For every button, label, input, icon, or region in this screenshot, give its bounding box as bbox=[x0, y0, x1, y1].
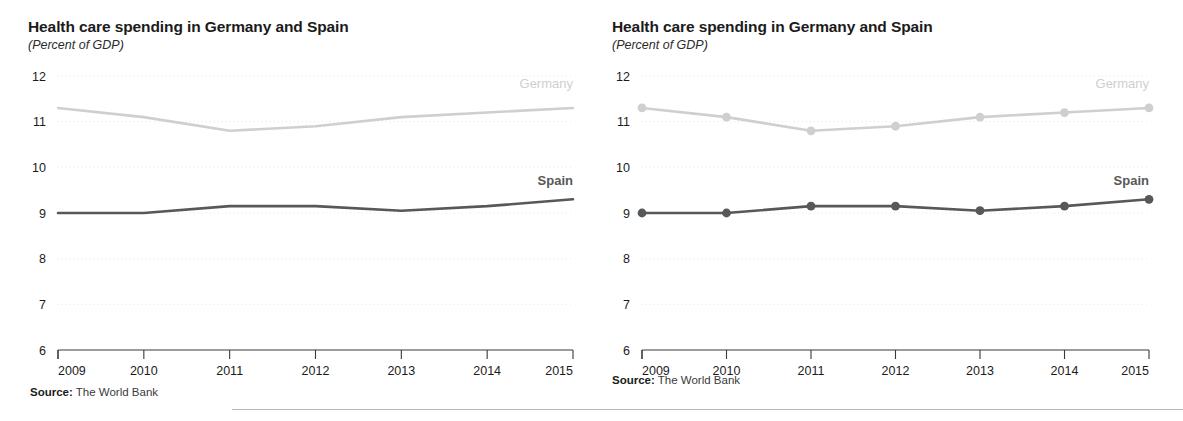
y-axis-tick-label: 6 bbox=[623, 343, 630, 357]
y-axis-tick-label: 8 bbox=[623, 252, 630, 266]
y-axis-tick-label: 12 bbox=[616, 69, 630, 83]
data-point-germany bbox=[1145, 103, 1154, 112]
data-point-germany bbox=[638, 103, 647, 112]
series-label-germany: Germany bbox=[520, 76, 574, 91]
data-point-germany bbox=[722, 112, 731, 121]
y-axis-tick-label: 10 bbox=[32, 161, 46, 175]
chart-subtitle-right: (Percent of GDP) bbox=[612, 39, 1183, 53]
data-point-spain bbox=[638, 208, 647, 217]
data-point-germany bbox=[807, 126, 816, 135]
source-label-right: Source: bbox=[612, 374, 655, 386]
y-axis-tick-label: 9 bbox=[39, 206, 46, 220]
figure-root: Health care spending in Germany and Spai… bbox=[0, 0, 1183, 421]
y-axis-tick-label: 12 bbox=[32, 69, 46, 83]
series-line-spain bbox=[58, 199, 573, 213]
source-note-left: Source: The World Bank bbox=[30, 386, 158, 400]
x-axis-tick-label: 2012 bbox=[302, 364, 330, 378]
source-value-left: The World Bank bbox=[73, 386, 158, 398]
y-axis-tick-label: 7 bbox=[39, 298, 46, 312]
x-axis-tick-label: 2010 bbox=[130, 364, 158, 378]
x-axis-tick-label: 2014 bbox=[1051, 364, 1079, 378]
line-chart-right: 67891011122009201020112012201320142015Ge… bbox=[612, 62, 1152, 345]
series-label-germany: Germany bbox=[1096, 76, 1150, 91]
source-label-left: Source: bbox=[30, 386, 73, 398]
chart-panel-left: Health care spending in Germany and Spai… bbox=[0, 0, 600, 421]
x-axis-tick-label: 2012 bbox=[882, 364, 910, 378]
y-axis-tick-label: 11 bbox=[617, 115, 630, 129]
data-point-spain bbox=[807, 202, 816, 211]
series-label-spain: Spain bbox=[1114, 173, 1149, 188]
data-point-spain bbox=[1060, 202, 1069, 211]
data-point-germany bbox=[976, 112, 985, 121]
series-line-germany bbox=[58, 108, 573, 131]
x-axis-tick-label: 2011 bbox=[798, 364, 825, 378]
data-point-germany bbox=[891, 122, 900, 131]
page-title-right: Health care spending in Germany and Spai… bbox=[612, 18, 1183, 35]
data-point-spain bbox=[722, 208, 731, 217]
data-point-spain bbox=[1145, 195, 1154, 204]
data-point-germany bbox=[1060, 108, 1069, 117]
series-label-spain: Spain bbox=[538, 173, 573, 188]
page-title: Health care spending in Germany and Spai… bbox=[28, 18, 600, 35]
bottom-divider bbox=[232, 409, 1183, 410]
line-chart-left: 67891011122009201020112012201320142015Ge… bbox=[28, 62, 576, 345]
y-axis-tick-label: 7 bbox=[623, 298, 630, 312]
chart-panel-right: Health care spending in Germany and Spai… bbox=[600, 0, 1183, 421]
source-note-right: Source: The World Bank bbox=[612, 374, 740, 388]
x-axis-tick-label: 2013 bbox=[387, 364, 415, 378]
x-axis-tick-label: 2011 bbox=[216, 364, 243, 378]
y-axis-tick-label: 6 bbox=[39, 343, 46, 357]
chart-subtitle: (Percent of GDP) bbox=[28, 39, 600, 53]
data-point-spain bbox=[891, 202, 900, 211]
x-axis-tick-label: 2014 bbox=[473, 364, 501, 378]
x-axis-tick-label: 2015 bbox=[1121, 364, 1149, 378]
y-axis-tick-label: 8 bbox=[39, 252, 46, 266]
y-axis-tick-label: 9 bbox=[623, 206, 630, 220]
plot-area-left: 67891011122009201020112012201320142015Ge… bbox=[28, 62, 576, 345]
data-point-spain bbox=[976, 206, 985, 215]
source-value-right: The World Bank bbox=[655, 374, 740, 386]
y-axis-tick-label: 10 bbox=[616, 161, 630, 175]
x-axis-tick-label: 2015 bbox=[545, 364, 573, 378]
y-axis-tick-label: 11 bbox=[33, 115, 46, 129]
plot-area-right: 67891011122009201020112012201320142015Ge… bbox=[612, 62, 1152, 345]
x-axis-tick-label: 2009 bbox=[58, 364, 86, 378]
x-axis-tick-label: 2013 bbox=[966, 364, 994, 378]
